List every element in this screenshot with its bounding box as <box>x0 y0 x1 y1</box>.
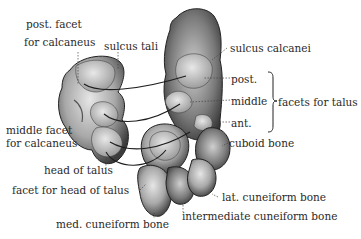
label-post: post. <box>231 73 257 85</box>
label-ant: ant. <box>231 117 252 129</box>
facet-for-head-of-talus <box>150 131 181 160</box>
label-post-facet-line1: post. facet <box>26 18 82 30</box>
middle-facet-for-talus <box>166 91 193 113</box>
label-head-of-talus: head of talus <box>44 164 113 176</box>
med-cuneiform-bone <box>138 165 172 216</box>
label-middle-facet-line1: middle facet <box>6 124 72 136</box>
label-sulcus-calcanei: sulcus calcanei <box>230 42 311 54</box>
lat-cuneiform-bone <box>187 159 216 196</box>
label-cuboid-bone: cuboid bone <box>229 137 294 149</box>
label-middle: middle <box>231 95 267 107</box>
label-sulcus-tali: sulcus tali <box>104 40 158 52</box>
label-facet-for-head-of-talus: facet for head of talus <box>12 184 129 196</box>
facets-brace <box>268 72 277 132</box>
post-facet-for-talus <box>176 54 213 89</box>
label-lat-cuneiform-bone: lat. cuneiform bone <box>222 191 326 203</box>
label-med-cuneiform-bone: med. cuneiform bone <box>56 218 169 230</box>
label-intermediate-cuneiform-bone: intermediate cuneiform bone <box>182 210 337 222</box>
label-post-facet-line2: for calcaneus <box>24 36 95 48</box>
calcaneus-bone <box>164 9 222 141</box>
label-middle-facet-line2: for calcaneus <box>6 137 77 149</box>
anatomy-diagram: post. facet for calcaneus sulcus tali su… <box>0 0 361 239</box>
label-facets-for-talus: facets for talus <box>278 96 358 108</box>
